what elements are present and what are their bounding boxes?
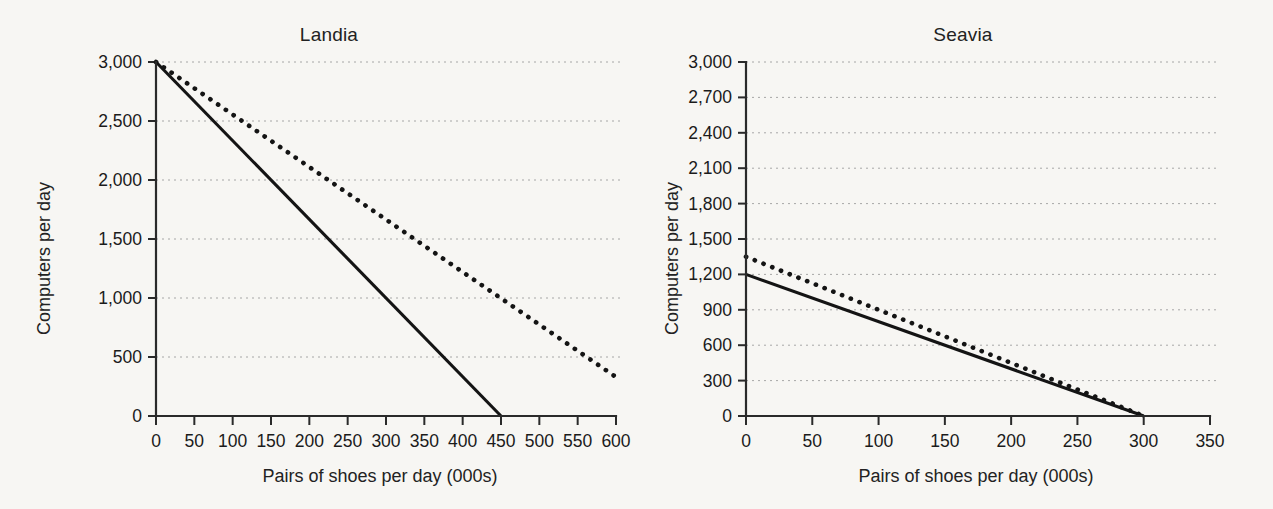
y-tick-label: 0	[132, 406, 142, 426]
y-tick-label: 1,500	[98, 229, 142, 249]
x-tick-label: 200	[295, 431, 324, 451]
tick-labels-seavia: 03006009001,2001,5001,8002,1002,4002,700…	[688, 52, 1225, 451]
data-series-seavia	[746, 257, 1144, 416]
x-tick-label: 600	[601, 431, 630, 451]
y-tick-label: 1,500	[688, 229, 732, 249]
y-tick-label: 2,500	[98, 111, 142, 131]
two-panel-ppf-figure: Landia Computers per day Pairs of shoes …	[0, 0, 1273, 509]
x-tick-label: 150	[256, 431, 285, 451]
y-tick-label: 2,100	[688, 158, 732, 178]
plot-area-seavia: 03006009001,2001,5001,8002,1002,4002,700…	[636, 0, 1273, 509]
series-line-solid	[156, 62, 501, 416]
tick-marks-landia	[148, 62, 616, 425]
x-tick-label: 350	[410, 431, 439, 451]
y-tick-label: 1,800	[688, 194, 732, 214]
x-tick-label: 0	[741, 431, 751, 451]
x-tick-label: 0	[151, 431, 161, 451]
y-tick-label: 500	[113, 347, 142, 367]
gridlines-landia	[156, 62, 622, 357]
series-line-dotted	[746, 257, 1144, 416]
y-tick-label: 300	[703, 371, 732, 391]
axes-seavia	[746, 62, 1210, 416]
tick-labels-landia: 05001,0001,5002,0002,5003,00005010015020…	[98, 52, 631, 451]
y-tick-label: 900	[703, 300, 732, 320]
x-tick-label: 100	[864, 431, 893, 451]
series-line-solid	[746, 274, 1144, 416]
x-tick-label: 400	[448, 431, 477, 451]
x-tick-label: 550	[563, 431, 592, 451]
x-tick-label: 350	[1195, 431, 1224, 451]
x-tick-label: 450	[486, 431, 515, 451]
x-tick-label: 250	[1063, 431, 1092, 451]
gridlines-seavia	[746, 62, 1216, 381]
y-tick-label: 2,400	[688, 123, 732, 143]
y-tick-label: 1,000	[98, 288, 142, 308]
y-tick-label: 2,000	[98, 170, 142, 190]
x-tick-label: 150	[930, 431, 959, 451]
y-tick-label: 0	[722, 406, 732, 426]
y-tick-label: 3,000	[688, 52, 732, 72]
x-tick-label: 300	[371, 431, 400, 451]
chart-panel-landia: Landia Computers per day Pairs of shoes …	[0, 0, 636, 509]
tick-marks-seavia	[738, 62, 1210, 425]
plot-area-landia: 05001,0001,5002,0002,5003,00005010015020…	[0, 0, 636, 509]
series-line-dotted	[156, 62, 616, 377]
y-tick-label: 600	[703, 335, 732, 355]
y-tick-label: 1,200	[688, 264, 732, 284]
x-tick-label: 50	[803, 431, 823, 451]
x-tick-label: 200	[997, 431, 1026, 451]
x-tick-label: 50	[185, 431, 205, 451]
x-tick-label: 100	[218, 431, 247, 451]
y-tick-label: 3,000	[98, 52, 142, 72]
chart-panel-seavia: Seavia Computers per day Pairs of shoes …	[636, 0, 1272, 509]
y-tick-label: 2,700	[688, 87, 732, 107]
x-tick-label: 250	[333, 431, 362, 451]
x-tick-label: 300	[1129, 431, 1158, 451]
x-tick-label: 500	[525, 431, 554, 451]
